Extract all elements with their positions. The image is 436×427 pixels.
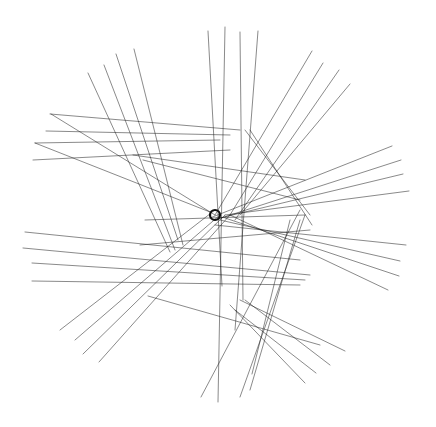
line-segment — [235, 31, 258, 330]
line-segment — [245, 300, 330, 365]
line-segment — [50, 114, 240, 130]
line-segment — [51, 114, 215, 215]
line-segment — [235, 70, 339, 220]
line-segment — [145, 215, 305, 220]
line-segment — [116, 54, 178, 240]
line-segment — [104, 65, 175, 250]
line-segment — [250, 220, 300, 390]
line-segment — [208, 31, 222, 286]
line-segment — [215, 160, 401, 220]
line-segment — [225, 218, 399, 276]
line-segment — [215, 225, 406, 245]
line-segment — [220, 174, 403, 218]
line-segment — [240, 300, 345, 351]
line-segment — [230, 215, 388, 290]
line-segment — [32, 281, 300, 285]
line-segment — [33, 150, 230, 160]
line-segment — [88, 73, 170, 252]
line-segment — [134, 49, 183, 245]
line-segment — [35, 143, 210, 212]
line-segment — [240, 215, 305, 397]
line-segment — [83, 215, 225, 354]
line-art-figure — [0, 0, 436, 427]
line-segment — [252, 220, 290, 374]
line-segment — [210, 146, 392, 218]
line-segment — [99, 215, 230, 362]
line-segment — [230, 63, 323, 215]
line-segment — [133, 155, 305, 180]
line-segment — [46, 131, 230, 135]
line-segment — [230, 305, 305, 383]
line-segment — [75, 215, 220, 340]
line-segment — [35, 140, 220, 143]
line-segment — [235, 310, 316, 373]
line-segment — [60, 210, 215, 330]
